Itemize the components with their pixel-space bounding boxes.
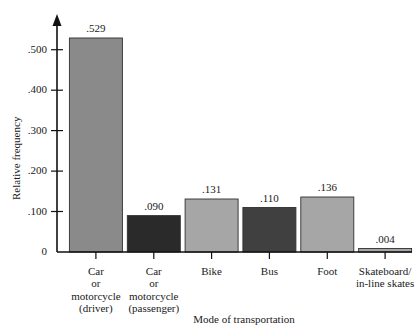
bar: [301, 197, 354, 252]
bar-value-label: .090: [124, 200, 184, 212]
bar-value-label: .004: [355, 233, 415, 245]
bar-value-label: .529: [66, 22, 126, 34]
bar-value-label: .136: [297, 181, 357, 193]
y-axis-arrowhead: [53, 14, 62, 26]
bar-value-label: .110: [239, 192, 299, 204]
y-tick-label: .500: [13, 43, 47, 55]
bar: [69, 38, 122, 252]
bar-value-label: .131: [182, 183, 242, 195]
bar: [127, 216, 180, 252]
y-tick-label: 0: [13, 245, 47, 257]
x-axis-title: Mode of transportation: [0, 313, 418, 325]
category-label: Skateboard/in-line skates: [342, 265, 418, 290]
y-tick-label: .400: [13, 83, 47, 95]
bar: [243, 208, 296, 253]
y-axis-title: Relative frequency: [10, 117, 22, 200]
bars-group: [69, 38, 411, 252]
bar: [185, 199, 238, 252]
relative-frequency-bar-chart: 0.100.200.300.400.500 .529.090.131.110.1…: [0, 0, 418, 335]
y-tick-label: .100: [13, 205, 47, 217]
